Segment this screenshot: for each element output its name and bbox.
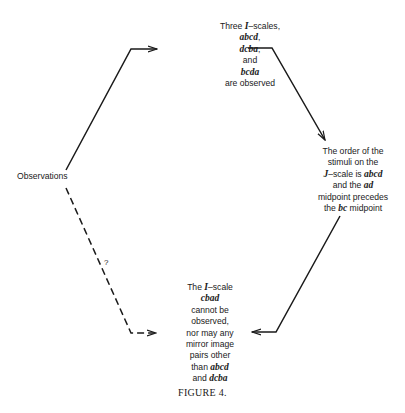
text-run: the [324, 203, 338, 213]
node-line: bcda [190, 67, 310, 78]
italic-term: abcd [240, 32, 258, 42]
text-run: , [258, 32, 260, 42]
edge-right-to-bottom [252, 216, 340, 332]
node-line: Three I–scales, [190, 21, 310, 32]
text-run: –scale is [328, 169, 364, 179]
top-node: Three I–scales,abcd,dcba,andbcdaare obse… [190, 21, 310, 89]
text-run: stimuli on the [328, 157, 379, 167]
node-line: The I–scale [160, 282, 260, 293]
italic-term: dcba [240, 44, 258, 54]
node-line: cannot be [160, 305, 260, 316]
node-line: cbad [160, 293, 260, 304]
node-line: than abcd [160, 362, 260, 373]
node-line: and the ad [298, 180, 405, 191]
edge-observations-to-top [66, 49, 157, 170]
text-run: The [187, 282, 204, 292]
text-run: pairs other [190, 350, 231, 360]
italic-term: bcda [241, 67, 259, 77]
node-line: and [190, 55, 310, 66]
node-line: nor may any [160, 328, 260, 339]
figure-caption: FIGURE 4. [0, 387, 405, 398]
node-line: the bc midpoint [298, 203, 405, 214]
node-line: and dcba [160, 373, 260, 384]
text-run: midpoint [347, 203, 382, 213]
italic-term: ad [364, 180, 374, 190]
text-run: –scales, [249, 21, 281, 31]
edge-observations-to-bottom-dashed [66, 188, 156, 333]
text-run: and [243, 55, 257, 65]
text-run: observed, [191, 316, 229, 326]
text-run: nor may any [186, 328, 233, 338]
italic-term: abcd [210, 362, 228, 372]
text-run: than [191, 362, 210, 372]
right-node: The order of thestimuli on theJ–scale is… [298, 146, 405, 214]
italic-term: bc [338, 203, 347, 213]
text-run: –scale [208, 282, 233, 292]
text-run: The order of the [322, 146, 383, 156]
node-line: J–scale is abcd [298, 169, 405, 180]
node-line: midpoint precedes [298, 192, 405, 203]
dashed-edge-label: ? [104, 258, 108, 267]
text-run: mirror image [186, 339, 234, 349]
node-line: observed, [160, 316, 260, 327]
italic-term: abcd [364, 169, 382, 179]
node-line: mirror image [160, 339, 260, 350]
italic-term: dcba [209, 373, 227, 383]
observations-node: Observations [17, 171, 68, 181]
text-run: and [192, 373, 209, 383]
node-line: The order of the [298, 146, 405, 157]
text-run: Three [220, 21, 245, 31]
node-line: abcd, [190, 32, 310, 43]
text-run: are observed [225, 78, 275, 88]
node-line: dcba, [190, 44, 310, 55]
text-run: and the [333, 180, 364, 190]
italic-term: cbad [201, 293, 219, 303]
node-line: stimuli on the [298, 157, 405, 168]
text-run: cannot be [191, 305, 229, 315]
text-run: midpoint precedes [318, 192, 388, 202]
text-run: , [258, 44, 260, 54]
bottom-node: The I–scalecbadcannot beobserved,nor may… [160, 282, 260, 385]
node-line: pairs other [160, 350, 260, 361]
node-line: are observed [190, 78, 310, 89]
